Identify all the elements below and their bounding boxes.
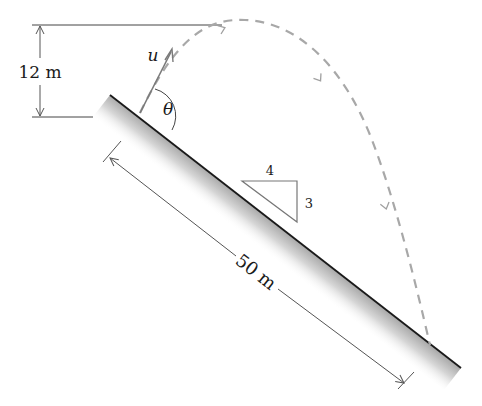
length-dimension: 50 m: [103, 141, 414, 389]
length-tick-start: [103, 141, 121, 162]
height-label: 12 m: [18, 62, 61, 82]
angle-label: θ: [163, 99, 173, 119]
slope-rise-label: 3: [305, 196, 313, 211]
trajectory-arrow-ascending: [214, 28, 224, 32]
velocity-label: u: [148, 45, 159, 65]
incline-surface-line: [110, 95, 461, 368]
incline: [92, 95, 461, 390]
trajectory-arrow-descending-upper: [314, 71, 320, 80]
slope-run-label: 4: [266, 163, 274, 178]
projectile-incline-diagram: 12 m u θ 4 3 50 m: [0, 0, 482, 406]
trajectory-arrow-descending-lower: [383, 197, 386, 208]
angle-theta: θ: [155, 89, 176, 130]
incline-shading: [92, 95, 461, 390]
